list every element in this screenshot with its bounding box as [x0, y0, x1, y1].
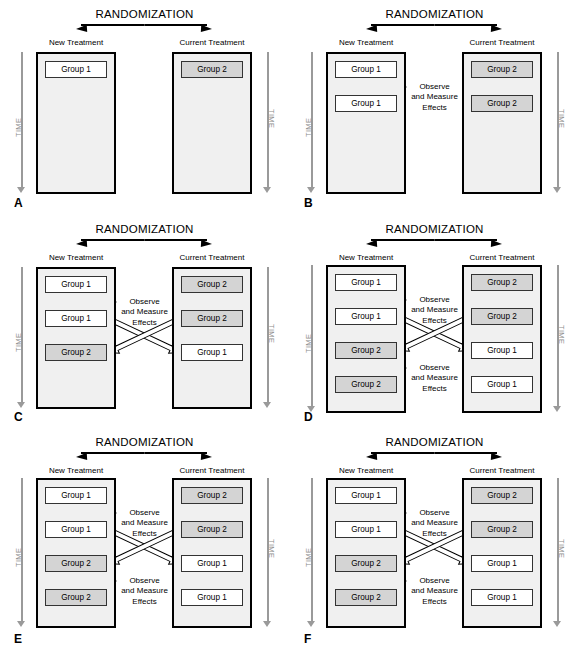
- observe-line-2: and Measure: [121, 307, 168, 318]
- time-axis-right: TIME: [260, 52, 276, 194]
- observe-line-2: and Measure: [411, 373, 458, 384]
- time-label: TIME: [267, 109, 276, 128]
- time-arrowhead-icon: [553, 406, 561, 412]
- time-arrowhead-icon: [17, 402, 25, 408]
- arm-label-current-treatment: Current Treatment: [180, 466, 245, 475]
- observe-line-2: and Measure: [411, 92, 458, 103]
- observe-line-1: Observe: [411, 576, 458, 587]
- time-axis-right: TIME: [260, 478, 276, 628]
- time-label: TIME: [14, 548, 23, 567]
- panel-c: CRANDOMIZATIONNew TreatmentCurrent Treat…: [0, 215, 289, 428]
- time-arrowhead-icon: [263, 187, 271, 193]
- arm-label-new-treatment: New Treatment: [339, 466, 393, 475]
- group-box: Group 1: [45, 487, 107, 504]
- group-box: Group 1: [45, 521, 107, 538]
- observe-measure-label: Observeand MeasureEffects: [411, 508, 458, 540]
- time-label: TIME: [267, 539, 276, 558]
- time-label: TIME: [304, 548, 313, 567]
- randomization-title: RANDOMIZATION: [290, 223, 579, 235]
- panel-letter-e: E: [14, 633, 22, 645]
- observe-line-3: Effects: [411, 529, 458, 540]
- group-box: Group 2: [471, 521, 533, 538]
- panel-b: BRANDOMIZATIONNew TreatmentCurrent Treat…: [290, 0, 579, 215]
- panel-letter-f: F: [304, 633, 311, 645]
- observe-measure-label: Observeand MeasureEffects: [411, 82, 458, 114]
- observe-measure-label: Observeand MeasureEffects: [411, 295, 458, 327]
- observe-line-1: Observe: [121, 297, 168, 308]
- group-box: Group 2: [471, 95, 533, 112]
- arm-label-current-treatment: Current Treatment: [470, 466, 535, 475]
- arm-label-new-treatment: New Treatment: [49, 253, 103, 262]
- arm-label-new-treatment: New Treatment: [49, 466, 103, 475]
- group-box: Group 1: [471, 555, 533, 572]
- time-arrowhead-icon: [553, 187, 561, 193]
- observe-measure-label: Observeand MeasureEffects: [411, 363, 458, 395]
- panel-d: DRANDOMIZATIONNew TreatmentCurrent Treat…: [290, 215, 579, 428]
- observe-line-3: Effects: [411, 316, 458, 327]
- group-box: Group 2: [471, 274, 533, 291]
- arm-label-new-treatment: New Treatment: [339, 38, 393, 47]
- time-axis-right: TIME: [550, 265, 566, 413]
- group-box: Group 1: [181, 344, 243, 361]
- time-arrowhead-icon: [307, 621, 315, 627]
- observe-line-2: and Measure: [121, 586, 168, 597]
- observe-measure-label: Observeand MeasureEffects: [121, 297, 168, 329]
- group-box: Group 1: [335, 95, 397, 112]
- group-box: Group 2: [335, 342, 397, 359]
- group-box: Group 2: [335, 589, 397, 606]
- observe-measure-label: Observeand MeasureEffects: [121, 576, 168, 608]
- arm-label-new-treatment: New Treatment: [49, 38, 103, 47]
- group-box: Group 2: [181, 521, 243, 538]
- time-axis-left: TIME: [14, 267, 30, 409]
- observe-line-1: Observe: [121, 576, 168, 587]
- group-box: Group 2: [181, 276, 243, 293]
- randomization-title: RANDOMIZATION: [290, 8, 579, 20]
- time-label: TIME: [557, 539, 566, 558]
- time-label: TIME: [304, 334, 313, 353]
- time-axis-right: TIME: [260, 267, 276, 409]
- time-arrowhead-icon: [263, 621, 271, 627]
- time-arrowhead-icon: [307, 406, 315, 412]
- observe-line-3: Effects: [411, 384, 458, 395]
- randomization-title: RANDOMIZATION: [290, 436, 579, 448]
- time-label: TIME: [304, 118, 313, 137]
- group-box: Group 1: [471, 342, 533, 359]
- time-axis-left: TIME: [304, 52, 320, 194]
- arm-label-current-treatment: Current Treatment: [470, 253, 535, 262]
- time-label: TIME: [557, 109, 566, 128]
- observe-line-2: and Measure: [411, 586, 458, 597]
- observe-line-3: Effects: [121, 597, 168, 608]
- time-axis-left: TIME: [14, 52, 30, 194]
- arm-label-current-treatment: Current Treatment: [470, 38, 535, 47]
- group-box: Group 1: [181, 555, 243, 572]
- arm-label-current-treatment: Current Treatment: [180, 253, 245, 262]
- group-box: Group 1: [45, 310, 107, 327]
- group-box: Group 1: [335, 487, 397, 504]
- group-box: Group 1: [471, 589, 533, 606]
- group-box: Group 2: [471, 61, 533, 78]
- observe-line-2: and Measure: [121, 518, 168, 529]
- observe-measure-label: Observeand MeasureEffects: [411, 576, 458, 608]
- panel-letter-c: C: [14, 411, 23, 423]
- observe-line-3: Effects: [121, 318, 168, 329]
- randomization-title: RANDOMIZATION: [0, 8, 289, 20]
- group-box: Group 2: [45, 589, 107, 606]
- group-box: Group 1: [335, 308, 397, 325]
- time-label: TIME: [267, 324, 276, 343]
- group-box: Group 1: [471, 376, 533, 393]
- panel-a: ARANDOMIZATIONNew TreatmentCurrent Treat…: [0, 0, 289, 215]
- panel-letter-b: B: [304, 197, 313, 209]
- group-box: Group 2: [45, 555, 107, 572]
- group-box: Group 2: [181, 61, 243, 78]
- observe-line-1: Observe: [411, 82, 458, 93]
- panel-f: FRANDOMIZATIONNew TreatmentCurrent Treat…: [290, 428, 579, 659]
- group-box: Group 2: [45, 344, 107, 361]
- time-arrowhead-icon: [307, 187, 315, 193]
- observe-line-3: Effects: [411, 103, 458, 114]
- arm-label-current-treatment: Current Treatment: [180, 38, 245, 47]
- time-axis-right: TIME: [550, 52, 566, 194]
- time-axis-left: TIME: [14, 478, 30, 628]
- group-box: Group 2: [471, 487, 533, 504]
- observe-line-1: Observe: [411, 363, 458, 374]
- randomization-title: RANDOMIZATION: [0, 436, 289, 448]
